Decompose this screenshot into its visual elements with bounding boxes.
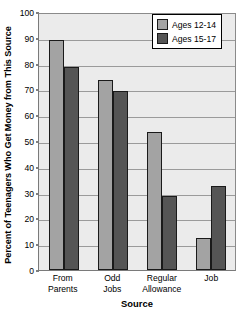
y-tick-label: 30 — [24, 189, 34, 199]
x-tick-label: FromParents — [38, 273, 87, 294]
x-tick-label-line: Allowance — [137, 284, 186, 295]
y-tick-label: 40 — [24, 163, 34, 173]
x-tick-label-line: Jobs — [88, 284, 137, 295]
x-tick-label: OddJobs — [88, 273, 137, 294]
x-tick-label-line: Job — [187, 273, 236, 284]
y-axis-tick-labels: 0102030405060708090100 — [14, 13, 36, 271]
y-tick-label: 70 — [24, 85, 34, 95]
y-tick-label: 80 — [24, 60, 34, 70]
x-tick-label-line: From — [38, 273, 87, 284]
x-tick-label: Job — [187, 273, 236, 284]
plot-area — [38, 13, 236, 271]
legend-swatch — [157, 19, 168, 30]
bar-group — [147, 14, 177, 270]
y-tick-label: 50 — [24, 137, 34, 147]
y-tick-label: 90 — [24, 34, 34, 44]
y-tick-label: 20 — [24, 214, 34, 224]
legend-item: Ages 12-14 — [157, 19, 216, 30]
bar — [98, 80, 113, 270]
bar — [49, 40, 64, 270]
y-tick-label: 0 — [29, 266, 34, 276]
y-tick-label: 60 — [24, 111, 34, 121]
legend: Ages 12-14Ages 15-17 — [152, 14, 222, 49]
y-tick-label: 100 — [20, 8, 34, 18]
x-tick-label-line: Odd — [88, 273, 137, 284]
legend-label: Ages 15-17 — [172, 34, 216, 44]
legend-label: Ages 12-14 — [172, 20, 216, 30]
y-tick-label: 10 — [24, 240, 34, 250]
bar — [211, 186, 226, 270]
bar-group — [98, 14, 128, 270]
x-tick-label: RegularAllowance — [137, 273, 186, 294]
legend-item: Ages 15-17 — [157, 33, 216, 44]
bar — [64, 67, 79, 270]
bar — [113, 91, 128, 270]
bars-layer — [39, 14, 235, 270]
legend-swatch — [157, 33, 168, 44]
bar-chart: Percent of Teenagers Who Get Money from … — [0, 0, 242, 314]
x-tick-label-line: Parents — [38, 284, 87, 295]
bar-group — [49, 14, 79, 270]
x-tick-label-line: Regular — [137, 273, 186, 284]
x-axis-tick-labels: FromParentsOddJobsRegularAllowanceJob — [38, 273, 236, 299]
bar — [196, 238, 211, 270]
y-axis-title-text: Percent of Teenagers Who Get Money from … — [3, 26, 13, 264]
x-axis-title: Source — [38, 298, 236, 309]
bar-group — [196, 14, 226, 270]
bar — [162, 196, 177, 270]
bar — [147, 132, 162, 270]
